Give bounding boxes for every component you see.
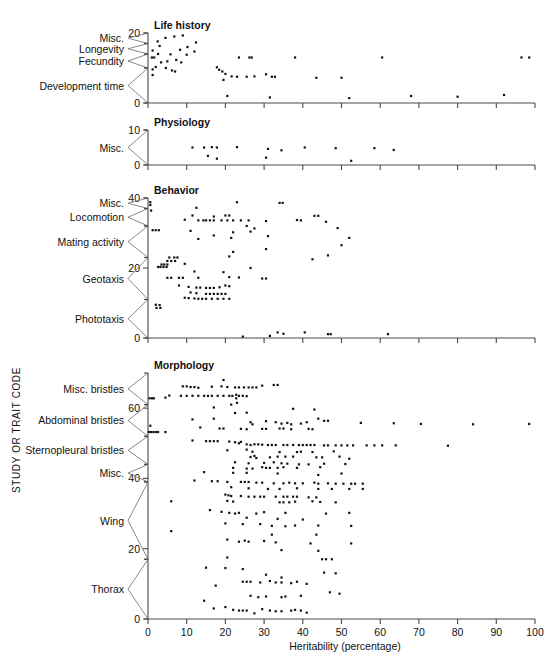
data-point xyxy=(296,467,298,469)
data-point xyxy=(149,201,151,203)
data-point xyxy=(246,443,248,445)
data-point xyxy=(166,277,168,279)
data-point xyxy=(263,496,265,498)
data-point xyxy=(308,463,310,465)
data-point xyxy=(472,423,474,425)
data-point xyxy=(319,501,321,503)
data-point xyxy=(193,479,195,481)
data-point xyxy=(325,512,327,514)
data-point xyxy=(298,463,300,465)
data-point xyxy=(155,66,157,68)
data-point xyxy=(296,487,298,489)
data-point xyxy=(222,271,224,273)
panel-title: Behavior xyxy=(154,184,199,196)
track-label: Phototaxis xyxy=(75,313,124,325)
data-point xyxy=(338,456,340,458)
data-point xyxy=(282,427,284,429)
data-point xyxy=(323,420,325,422)
data-point xyxy=(311,258,313,260)
data-point xyxy=(335,572,337,574)
data-point xyxy=(217,293,219,295)
data-point xyxy=(216,66,218,68)
data-point xyxy=(213,418,215,420)
data-point xyxy=(195,41,197,43)
data-point xyxy=(153,56,155,58)
data-point xyxy=(165,67,167,69)
data-point xyxy=(335,483,337,485)
data-point xyxy=(236,402,238,404)
track-label: Misc. bristles xyxy=(63,383,124,395)
data-point xyxy=(277,456,279,458)
data-point xyxy=(224,284,226,286)
data-point xyxy=(286,463,288,465)
y-tick-label: 0 xyxy=(134,332,140,344)
data-point xyxy=(216,146,218,148)
data-point xyxy=(168,394,170,396)
data-point xyxy=(246,449,248,451)
data-point xyxy=(327,420,329,422)
data-point xyxy=(209,440,211,442)
group-bracket xyxy=(128,559,148,619)
data-point xyxy=(317,488,319,490)
panel-life-history: Life history020Misc.LongevityFecundityDe… xyxy=(39,19,535,109)
data-point xyxy=(213,406,215,408)
data-point xyxy=(227,494,229,496)
data-point xyxy=(155,304,157,306)
data-point xyxy=(265,277,267,279)
data-point xyxy=(248,462,250,464)
data-point xyxy=(395,444,397,446)
data-point xyxy=(327,333,329,335)
data-point xyxy=(306,583,308,585)
data-point xyxy=(205,440,207,442)
data-point xyxy=(209,287,211,289)
data-point xyxy=(269,335,271,337)
data-point xyxy=(340,472,342,474)
data-point xyxy=(188,297,190,299)
data-point xyxy=(222,395,224,397)
data-point xyxy=(292,408,294,410)
data-point xyxy=(528,423,530,425)
data-point xyxy=(350,542,352,544)
data-point xyxy=(205,567,207,569)
data-point xyxy=(317,550,319,552)
data-point xyxy=(296,451,298,453)
data-point xyxy=(226,538,228,540)
data-point xyxy=(236,76,238,78)
data-point xyxy=(173,256,175,258)
data-point xyxy=(150,431,152,433)
data-point xyxy=(246,412,248,414)
data-point xyxy=(218,427,220,429)
data-point xyxy=(302,482,304,484)
data-point xyxy=(155,307,157,309)
data-point xyxy=(350,483,352,485)
data-point xyxy=(170,500,172,502)
track-label: Misc. xyxy=(100,467,125,479)
data-point xyxy=(246,472,248,474)
data-point xyxy=(269,467,271,469)
data-point xyxy=(242,395,244,397)
data-point xyxy=(249,456,251,458)
data-point xyxy=(191,439,193,441)
data-point xyxy=(275,421,277,423)
data-point xyxy=(273,461,275,463)
data-point xyxy=(218,69,220,71)
data-point xyxy=(164,37,166,39)
data-points xyxy=(151,34,531,99)
data-point xyxy=(317,418,319,420)
data-point xyxy=(263,540,265,542)
data-point xyxy=(308,428,310,430)
data-point xyxy=(278,427,280,429)
data-point xyxy=(164,431,166,433)
data-point xyxy=(323,572,325,574)
data-point xyxy=(189,386,191,388)
data-point xyxy=(248,496,250,498)
data-point xyxy=(232,472,234,474)
data-point xyxy=(273,482,275,484)
data-point xyxy=(211,480,213,482)
data-point xyxy=(226,95,228,97)
data-point xyxy=(224,493,226,495)
data-point xyxy=(155,431,157,433)
data-point xyxy=(234,386,236,388)
data-point xyxy=(319,466,321,468)
data-point xyxy=(300,609,302,611)
